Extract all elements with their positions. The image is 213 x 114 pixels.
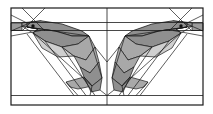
tessellation-canvas: Escher-style tessellation figure Two mir… bbox=[0, 0, 213, 114]
tessellation-figure: Escher-style tessellation figure Two mir… bbox=[0, 0, 213, 114]
eye-icon-left bbox=[31, 24, 34, 27]
figure-background bbox=[0, 0, 213, 114]
eye-icon-right bbox=[179, 24, 182, 27]
